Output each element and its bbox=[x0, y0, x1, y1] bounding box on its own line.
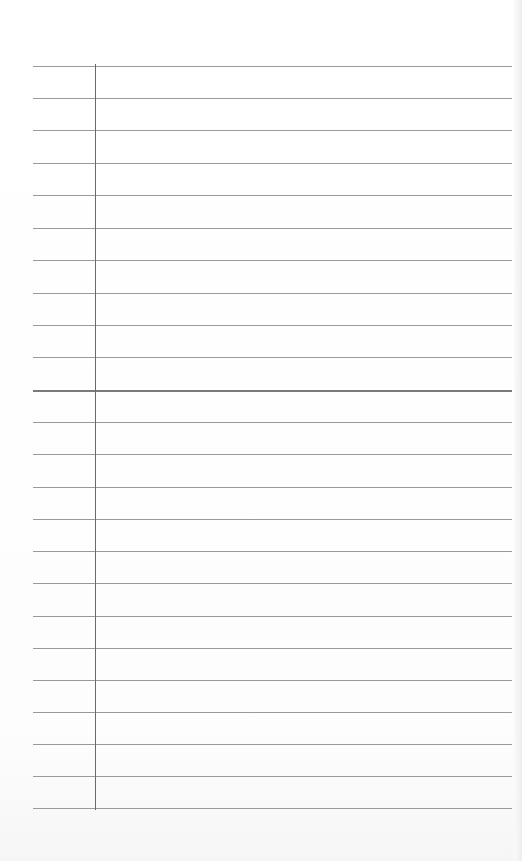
ruled-line bbox=[33, 744, 512, 745]
ruled-line bbox=[33, 808, 512, 809]
ruled-line bbox=[33, 519, 512, 520]
ruled-line bbox=[33, 390, 512, 392]
ruled-line bbox=[33, 776, 512, 777]
ruled-line bbox=[33, 195, 512, 196]
ruled-line bbox=[33, 487, 512, 488]
ruled-line bbox=[33, 551, 512, 552]
ruled-line bbox=[33, 325, 512, 326]
paper-edge-shadow bbox=[514, 0, 522, 861]
ruled-line bbox=[33, 293, 512, 294]
ruled-line bbox=[33, 163, 512, 164]
ruled-line bbox=[33, 648, 512, 649]
ruled-line bbox=[33, 583, 512, 584]
ruled-line bbox=[33, 616, 512, 617]
ruled-line bbox=[33, 712, 512, 713]
ruled-line bbox=[33, 680, 512, 681]
ruled-line bbox=[33, 66, 512, 67]
lined-paper bbox=[0, 0, 522, 861]
margin-line bbox=[95, 64, 96, 810]
ruled-line bbox=[33, 228, 512, 229]
ruled-line bbox=[33, 422, 512, 423]
ruled-line bbox=[33, 357, 512, 358]
ruled-line bbox=[33, 130, 512, 131]
ruled-line bbox=[33, 454, 512, 455]
ruled-line bbox=[33, 260, 512, 261]
ruled-line bbox=[33, 98, 512, 99]
